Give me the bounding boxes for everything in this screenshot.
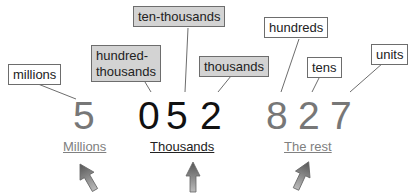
label-hundred-thousands: hundred- thousands bbox=[91, 45, 161, 82]
label-text: tens bbox=[312, 60, 337, 75]
label-ten-thousands: ten-thousands bbox=[133, 6, 225, 27]
label-hundreds: hundreds bbox=[264, 17, 328, 38]
digit-units: 7 bbox=[330, 96, 352, 136]
digit-thousands: 2 bbox=[200, 96, 222, 136]
label-text: hundreds bbox=[269, 20, 323, 35]
label-text: units bbox=[376, 47, 403, 62]
label-thousands: thousands bbox=[199, 56, 269, 77]
group-millions: Millions bbox=[63, 139, 106, 154]
digit-ten-thousands: 5 bbox=[166, 96, 188, 136]
digit-hundred-thousands: 0 bbox=[138, 96, 160, 136]
digit-millions: 5 bbox=[73, 96, 95, 136]
label-text: hundred- bbox=[96, 48, 156, 64]
label-millions: millions bbox=[8, 64, 61, 85]
label-text: thousands bbox=[96, 64, 156, 80]
group-thousands: Thousands bbox=[150, 139, 214, 154]
label-tens: tens bbox=[307, 57, 342, 78]
label-units: units bbox=[371, 44, 408, 65]
digit-tens: 2 bbox=[298, 96, 320, 136]
digit-hundreds: 8 bbox=[266, 96, 288, 136]
arrow-icon bbox=[73, 158, 316, 194]
group-rest: The rest bbox=[284, 139, 332, 154]
label-text: thousands bbox=[204, 59, 264, 74]
label-text: millions bbox=[13, 67, 56, 82]
label-text: ten-thousands bbox=[138, 9, 220, 24]
